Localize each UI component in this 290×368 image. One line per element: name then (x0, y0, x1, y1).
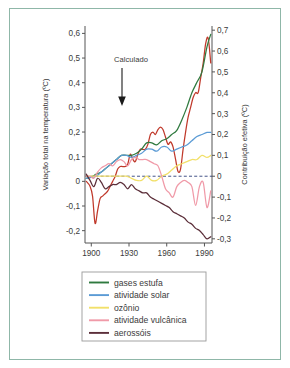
y2-axis-tick-label: 0,3 (217, 110, 229, 119)
legend-label-1: gases estufa (114, 278, 163, 288)
x-axis-tick-label: 1990 (195, 249, 214, 258)
legend-label-3: ozônio (114, 303, 140, 313)
y2-axis-tick-label: 0,5 (217, 68, 229, 77)
series-line-gases-estufa (86, 34, 210, 178)
series-line-atividade-solar (86, 132, 210, 178)
y2-axis-tick-label: 0,4 (217, 89, 229, 98)
y2-axis-tick-label: 0,2 (217, 130, 229, 139)
y-axis-tick-label: -0,1 (66, 202, 81, 211)
y2-axis-tick-label: 0,6 (217, 47, 229, 56)
axes-frame (85, 26, 212, 243)
series-line-oz-nio (86, 155, 210, 181)
y-axis-tick-label: 0,4 (69, 79, 81, 88)
series-line-atividade-vulc-nica (86, 157, 210, 207)
legend-label-4: atividade vulcânica (114, 315, 187, 325)
x-axis-tick-label: 1960 (158, 249, 177, 258)
calculado-annotation-label: Calculado (114, 55, 148, 64)
legend-label-2: atividade solar (114, 290, 170, 300)
series-layer (86, 34, 210, 239)
figure-root: 0,60,50,40,30,20,10-0,1-0,20,70,60,50,40… (0, 0, 290, 368)
y2-axis-tick-label: -0,2 (217, 214, 232, 223)
calculado-arrow-head (118, 97, 126, 107)
y-axis-title: Variação total na temperatura (ºC) (41, 79, 50, 191)
climate-contribution-chart: 0,60,50,40,30,20,10-0,1-0,20,70,60,50,40… (0, 0, 290, 368)
series-line-aeross-is (86, 174, 210, 239)
y-axis-tick-label: 0,6 (69, 29, 81, 38)
legend-label-5: aerossóis (114, 328, 151, 338)
y-axis-tick-label: 0 (75, 177, 80, 186)
y-axis-tick-label: 0,3 (69, 103, 81, 112)
x-axis-tick-label: 1930 (120, 249, 139, 258)
y2-axis-tick-label: 0,1 (217, 151, 229, 160)
x-axis-tick-label: 1900 (82, 249, 101, 258)
y-axis-tick-label: -0,2 (66, 227, 81, 236)
y2-axis-tick-label: -0,1 (217, 193, 232, 202)
y-axis-tick-label: 0,2 (69, 128, 81, 137)
y-axis-tick-label: 0,1 (69, 153, 81, 162)
y2-axis-title: Contribuição efetiva (ºC) (240, 104, 249, 184)
y-axis-tick-label: 0,5 (69, 54, 81, 63)
y2-axis-tick-label: 0,7 (217, 26, 229, 35)
y2-axis-tick-label: -0,3 (217, 235, 232, 244)
y2-axis-tick-label: 0 (217, 172, 222, 181)
